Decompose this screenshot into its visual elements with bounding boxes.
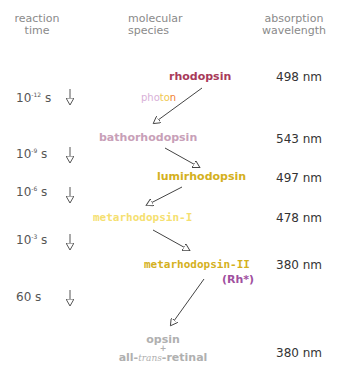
arrows-layer bbox=[0, 0, 337, 380]
transition-arrow-icon bbox=[154, 88, 202, 123]
transition-arrow-icon bbox=[171, 279, 204, 325]
transition-arrow-icon bbox=[153, 230, 189, 250]
transition-arrow-icon bbox=[147, 187, 182, 205]
transition-arrow-icon bbox=[165, 148, 199, 167]
